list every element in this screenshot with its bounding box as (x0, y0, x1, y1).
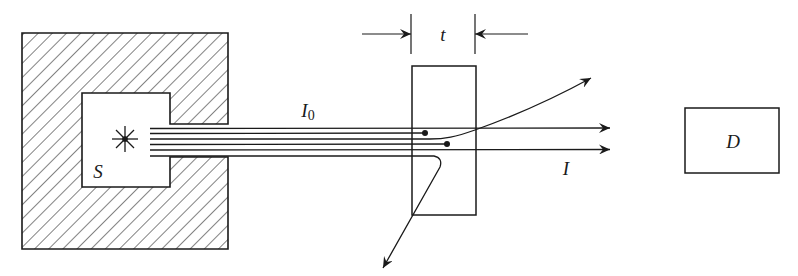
thickness-label: t (440, 25, 445, 44)
absorbed-ray-2 (150, 144, 447, 145)
absorption-point-1 (422, 130, 428, 136)
absorber-slab (412, 66, 476, 215)
absorption-point-2 (444, 141, 450, 147)
transmitted-ray-2 (150, 150, 610, 151)
absorbed-ray-1 (150, 133, 425, 134)
incident-intensity-subscript: 0 (308, 108, 315, 123)
transmitted-ray-1 (150, 128, 610, 129)
detector-label: D (726, 132, 740, 151)
transmitted-intensity-label: I (563, 159, 569, 178)
source-label: S (93, 162, 103, 181)
diagram-canvas: S I0 t I D (0, 0, 798, 276)
diagram-svg (0, 0, 798, 276)
source-star-icon (112, 126, 138, 152)
incident-intensity-label: I0 (301, 101, 314, 123)
